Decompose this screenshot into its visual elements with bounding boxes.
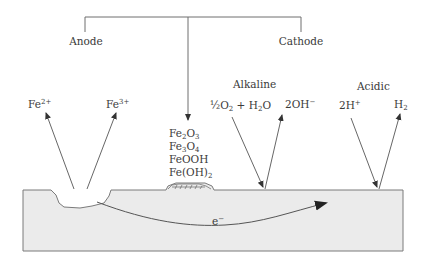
fe3plus-base: Fe (106, 98, 119, 110)
hydrogen-ion-label: 2H+ (339, 100, 361, 111)
feoh2-base: Fe(OH) (169, 166, 208, 178)
fe3plus-charge: 3+ (119, 98, 129, 106)
electron-charge: − (218, 215, 224, 223)
half-o: ½O (210, 99, 229, 111)
corrosion-diagram: Anode Cathode Fe2+ Fe3+ Fe2O3 Fe3O4 FeOO… (0, 0, 444, 264)
oh-base: 2OH (285, 98, 309, 110)
fe3o4-o: O (186, 140, 195, 152)
alkaline-reactant-label: ½O2 + H2O (210, 100, 271, 111)
plus-h: + H (233, 99, 258, 111)
fe2plus-base: Fe (28, 98, 41, 110)
h-ion-base: 2H (339, 99, 355, 111)
hydrogen-gas-label: H2 (394, 99, 408, 110)
fe3plus-label: Fe3+ (106, 99, 129, 110)
o-tail: O (262, 99, 271, 111)
hydroxide-label: 2OH− (285, 99, 315, 110)
anode-label: Anode (69, 36, 103, 47)
product-fe3o4: Fe3O4 (169, 140, 212, 153)
electron-label: e− (212, 216, 224, 227)
fe3o4-fe: Fe (169, 140, 182, 152)
product-feooh: FeOOH (169, 153, 212, 166)
alkaline-label: Alkaline (233, 79, 276, 90)
product-fe2o3: Fe2O3 (169, 127, 212, 140)
h-ion-charge: + (355, 99, 361, 107)
fe2plus-charge: 2+ (41, 98, 51, 106)
h2-gas-sub: 2 (403, 104, 407, 112)
fe2o3-o: O (186, 127, 195, 139)
fe2o3-fe: Fe (169, 127, 182, 139)
fe2plus-label: Fe2+ (28, 99, 51, 110)
acidic-label: Acidic (357, 81, 390, 92)
oh-charge: − (309, 98, 315, 106)
cathode-label: Cathode (279, 36, 324, 47)
alkaline-cathode-arrows (232, 115, 282, 189)
acidic-cathode-arrows (351, 114, 400, 189)
corrosion-products-list: Fe2O3 Fe3O4 FeOOH Fe(OH)2 (169, 127, 212, 179)
feoh2-sub: 2 (208, 172, 212, 180)
anode-arrows (46, 113, 116, 189)
product-feoh2: Fe(OH)2 (169, 166, 212, 179)
h2-base: H (394, 98, 403, 110)
